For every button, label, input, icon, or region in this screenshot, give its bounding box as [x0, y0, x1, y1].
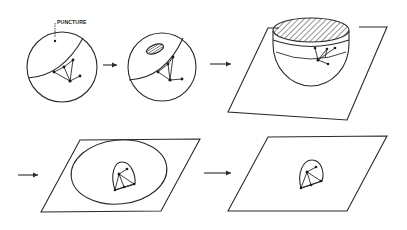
stage-4-stretched-disc	[41, 135, 200, 212]
stage-3-hemisphere-on-plane	[228, 18, 387, 120]
hatched-opening	[273, 18, 349, 42]
bowl-band	[276, 52, 346, 59]
sphere-outline	[27, 32, 97, 102]
graph	[300, 166, 323, 190]
stretched-disc-outline	[68, 135, 170, 209]
graph	[114, 168, 136, 192]
hatched-hole	[145, 42, 165, 57]
stage-5-planar-graph	[228, 136, 387, 211]
stage-2-sphere-with-hole	[128, 33, 196, 101]
stage-1-punctured-sphere: PUNCTURE	[27, 19, 97, 102]
graph	[53, 59, 82, 83]
sphere-to-plane-diagram: PUNCTURE	[0, 0, 407, 230]
puncture-point-icon	[54, 40, 56, 42]
puncture-label: PUNCTURE	[57, 19, 87, 25]
